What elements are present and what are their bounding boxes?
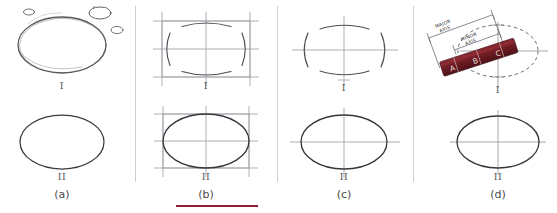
stage-label-c-1: I: [329, 82, 359, 93]
arc-top-c1: [320, 25, 369, 29]
centerlines-c2: [290, 108, 400, 178]
trammel-strip: A B C: [439, 38, 518, 76]
stage-label-a-2: II: [47, 171, 77, 182]
sketch-trial-oval-right: [89, 7, 111, 19]
axis-leader-left: [429, 38, 440, 68]
construction-box-b2: [154, 106, 258, 177]
panel-label-b: (b): [186, 188, 226, 201]
drawing-canvas: MAJOR AXIS MINOR AXIS A B C: [0, 0, 557, 213]
panel-label-c: (c): [324, 188, 364, 201]
stage-label-b-2: II: [191, 171, 221, 182]
sketch-ellipse-outline-2: [20, 18, 106, 72]
panel-c-stage-2: [290, 108, 400, 178]
arc-bottom-b1: [182, 72, 231, 76]
arc-top-b1: [182, 23, 231, 27]
minor-axis-tick-left: [453, 45, 456, 54]
panel-b-stage-1: [153, 12, 259, 86]
panel-b-stage-2: [154, 106, 258, 177]
stage-label-b-1: I: [191, 80, 221, 91]
panel-a-stage-1: [18, 7, 123, 73]
panel-divider-group: [136, 6, 414, 182]
panel-a-stage-2: [20, 115, 104, 169]
centerlines-c1: [292, 16, 398, 86]
sketch-trial-oval-small: [111, 26, 123, 33]
centerlines-d2: [450, 110, 546, 175]
panel-d-stage-1: MAJOR AXIS MINOR AXIS A B C: [425, 4, 548, 88]
panel-c-stage-1: [292, 16, 398, 86]
stage-label-a-1: I: [47, 80, 77, 91]
finished-ellipse-a: [20, 115, 104, 169]
arc-bottom-c1: [320, 71, 369, 75]
sketch-trial-oval-left: [24, 9, 35, 15]
panel-d-stage-2: [450, 110, 546, 175]
stage-label-d-2: II: [483, 171, 513, 182]
sketch-ellipse-overrun: [22, 54, 82, 69]
figure-ellipse-construction: MAJOR AXIS MINOR AXIS A B C: [0, 0, 557, 213]
panel-label-a: (a): [42, 188, 82, 201]
stage-label-c-2: II: [329, 171, 359, 182]
sketch-ellipse-outline-1: [18, 17, 106, 73]
panel-label-d: (d): [478, 188, 518, 201]
stage-label-d-1: I: [483, 84, 513, 95]
